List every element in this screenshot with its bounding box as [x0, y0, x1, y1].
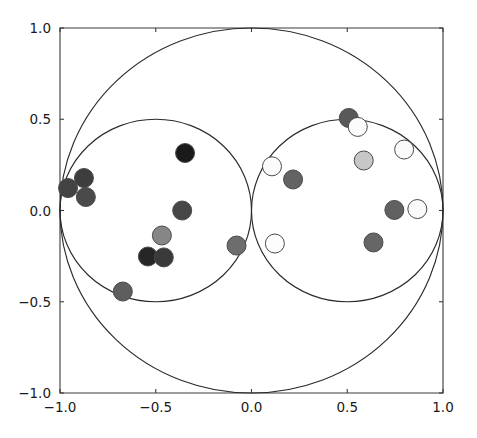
y-tick-label-4: 1.0 — [30, 20, 51, 36]
data-point-p8 — [154, 248, 173, 267]
data-point-p11 — [262, 157, 281, 176]
data-point-p5 — [173, 201, 192, 220]
plot-canvas: −1.0−0.50.00.51.0 −1.0−0.50.00.51.0 — [0, 0, 477, 438]
x-tick-label-1: −0.5 — [139, 399, 172, 415]
y-tick-label-3: 0.5 — [30, 111, 51, 127]
data-point-p16 — [395, 140, 414, 159]
data-point-p18 — [408, 200, 427, 219]
x-tick-label-3: 0.5 — [337, 399, 358, 415]
data-point-p6 — [152, 226, 171, 245]
data-point-p2 — [74, 169, 93, 188]
data-point-p10 — [227, 236, 246, 255]
data-point-p9 — [113, 282, 132, 301]
scatter-figure: −1.0−0.50.00.51.0 −1.0−0.50.00.51.0 — [0, 0, 477, 438]
data-point-p12 — [284, 170, 303, 189]
data-points — [59, 108, 427, 301]
data-point-p4 — [176, 144, 195, 163]
x-tick-label-0: −1.0 — [44, 399, 77, 415]
data-point-p20 — [364, 233, 383, 252]
left-circle — [60, 119, 252, 302]
data-point-p17 — [385, 200, 404, 219]
y-tick-label-0: −1.0 — [18, 385, 51, 401]
data-point-p3 — [76, 187, 95, 206]
y-axis-tick-labels: −1.0−0.50.00.51.0 — [18, 20, 51, 401]
data-point-p19 — [265, 234, 284, 253]
x-tick-label-4: 1.0 — [432, 399, 453, 415]
y-tick-label-2: 0.0 — [30, 203, 51, 219]
data-point-p15 — [354, 151, 373, 170]
data-point-p14 — [348, 117, 367, 136]
x-axis-tick-labels: −1.0−0.50.00.51.0 — [44, 399, 454, 415]
y-tick-label-1: −0.5 — [18, 294, 51, 310]
x-tick-label-2: 0.0 — [241, 399, 262, 415]
